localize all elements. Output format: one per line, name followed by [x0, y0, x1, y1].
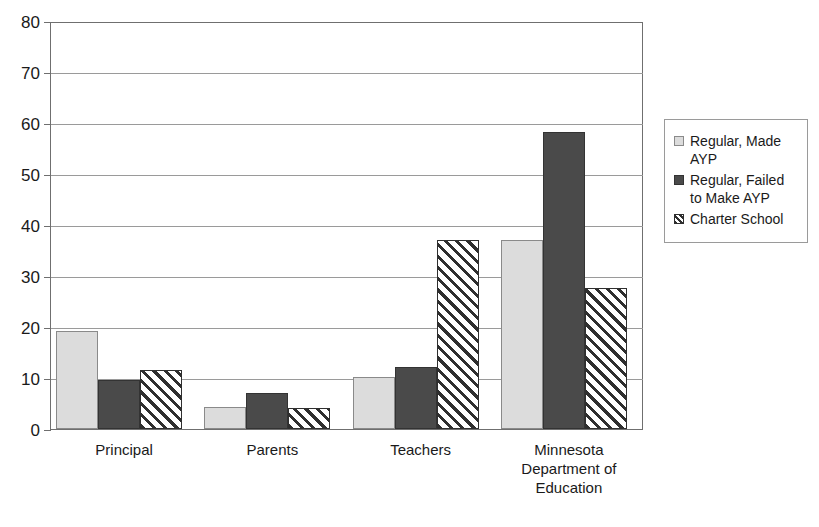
bar-0-2[interactable] [140, 370, 182, 429]
bar-0-0[interactable] [56, 331, 98, 429]
bar-1-2[interactable] [288, 408, 330, 429]
legend-item-regular-made-ayp[interactable]: Regular, Made AYP [674, 132, 798, 168]
plot-area: 01020304050607080 [50, 22, 643, 430]
legend-swatch-charter-school [674, 214, 684, 224]
bar-group-0 [51, 22, 199, 429]
x-axis-label-line: Teachers [347, 440, 495, 459]
x-axis-label-0: Principal [50, 440, 198, 459]
y-axis-tick-40 [44, 226, 51, 227]
y-axis-tick-0 [44, 430, 51, 431]
legend-label-regular-made-ayp: Regular, Made AYP [690, 132, 798, 168]
legend-label-regular-failed-ayp: Regular, Failed to Make AYP [690, 171, 798, 207]
bar-chart: 01020304050607080 PrincipalParentsTeache… [0, 0, 819, 527]
legend-label-charter-school: Charter School [690, 210, 783, 228]
x-axis-label-1: Parents [198, 440, 346, 459]
y-axis-label-0: 0 [31, 422, 40, 439]
y-axis-label-40: 40 [21, 218, 40, 235]
x-axis-label-line: Department of [495, 459, 643, 478]
x-axis-label-3: MinnesotaDepartment ofEducation [495, 440, 643, 497]
bar-1-1[interactable] [246, 393, 288, 429]
x-axis-label-line: Principal [50, 440, 198, 459]
x-axis-label-2: Teachers [347, 440, 495, 459]
bar-3-0[interactable] [501, 240, 543, 429]
bar-2-0[interactable] [353, 377, 395, 429]
y-axis-label-10: 10 [21, 371, 40, 388]
y-axis-label-30: 30 [21, 269, 40, 286]
bar-group-3 [496, 22, 644, 429]
y-axis-label-80: 80 [21, 14, 40, 31]
y-axis-tick-30 [44, 277, 51, 278]
bar-group-1 [199, 22, 347, 429]
y-axis-tick-70 [44, 73, 51, 74]
y-axis-label-50: 50 [21, 167, 40, 184]
y-axis-label-60: 60 [21, 116, 40, 133]
bar-group-2 [348, 22, 496, 429]
bar-1-0[interactable] [204, 407, 246, 429]
y-axis-tick-20 [44, 328, 51, 329]
y-axis-tick-10 [44, 379, 51, 380]
y-axis-tick-50 [44, 175, 51, 176]
bar-2-1[interactable] [395, 367, 437, 429]
x-axis-label-line: Parents [198, 440, 346, 459]
bar-2-2[interactable] [437, 240, 479, 429]
chart-legend: Regular, Made AYP Regular, Failed to Mak… [664, 119, 808, 243]
bar-3-2[interactable] [585, 288, 627, 429]
legend-item-charter-school[interactable]: Charter School [674, 210, 798, 228]
x-axis-label-line: Education [495, 478, 643, 497]
x-axis-label-line: Minnesota [495, 440, 643, 459]
legend-swatch-regular-failed-ayp [674, 175, 684, 185]
legend-item-regular-failed-ayp[interactable]: Regular, Failed to Make AYP [674, 171, 798, 207]
legend-swatch-regular-made-ayp [674, 136, 684, 146]
y-axis-tick-60 [44, 124, 51, 125]
bar-0-1[interactable] [98, 380, 140, 429]
y-axis-label-20: 20 [21, 320, 40, 337]
y-axis-tick-80 [44, 22, 51, 23]
y-axis-label-70: 70 [21, 65, 40, 82]
bar-3-1[interactable] [543, 132, 585, 429]
